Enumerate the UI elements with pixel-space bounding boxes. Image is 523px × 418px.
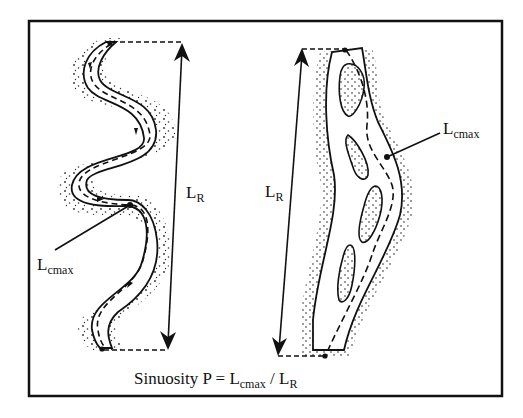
braided-end-dot (322, 353, 327, 358)
meander-end-dot (99, 346, 104, 351)
sinuosity-diagram: LR Lcmax LR Lcmax Sinuosity P = Lcmax / … (0, 0, 523, 418)
meander-start-dot (107, 40, 112, 45)
sinuosity-caption: Sinuosity P = Lcmax / LR (134, 369, 297, 391)
braided-start-dot (342, 47, 347, 52)
